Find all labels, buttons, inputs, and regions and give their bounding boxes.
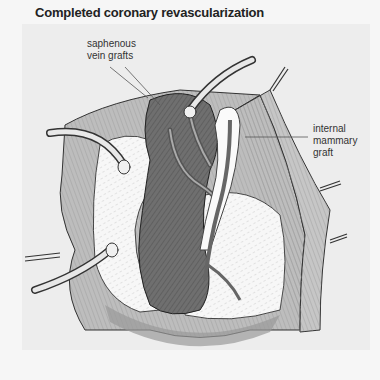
heart-illustration: [0, 0, 380, 380]
label-line: mammary: [313, 135, 357, 147]
label-line: vein grafts: [87, 50, 136, 62]
label-line: saphenous: [87, 38, 136, 50]
label-line: internal: [313, 123, 357, 135]
label-internal-mammary-graft: internal mammary graft: [313, 123, 357, 159]
label-saphenous-vein-grafts: saphenous vein grafts: [87, 38, 136, 62]
label-line: graft: [313, 147, 357, 159]
